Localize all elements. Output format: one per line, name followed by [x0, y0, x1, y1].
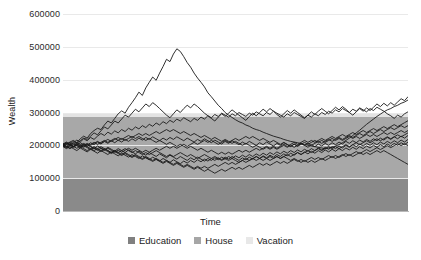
chart-legend: EducationHouseVacation: [0, 235, 421, 246]
legend-swatch-icon: [194, 237, 201, 244]
y-tick-label: 0: [4, 206, 60, 216]
plot-area: [63, 14, 408, 211]
y-tick-label: 100000: [4, 173, 60, 183]
legend-item-house[interactable]: House: [194, 235, 232, 246]
wealth-simulation-chart: Wealth 010000020000030000040000050000060…: [0, 0, 421, 260]
y-tick-label: 300000: [4, 108, 60, 118]
wealth-path: [63, 49, 408, 149]
legend-swatch-icon: [246, 237, 253, 244]
x-axis-label: Time: [0, 216, 421, 227]
wealth-paths: [63, 14, 408, 211]
y-tick-label: 600000: [4, 9, 60, 19]
legend-label: Vacation: [257, 235, 293, 246]
x-axis-line: [63, 211, 409, 212]
y-tick-label: 400000: [4, 75, 60, 85]
legend-swatch-icon: [128, 237, 135, 244]
legend-label: House: [205, 235, 232, 246]
legend-label: Education: [139, 235, 181, 246]
legend-item-vacation[interactable]: Vacation: [246, 235, 293, 246]
wealth-path: [63, 126, 408, 150]
y-tick-label: 200000: [4, 140, 60, 150]
y-tick-label: 500000: [4, 42, 60, 52]
legend-item-education[interactable]: Education: [128, 235, 181, 246]
